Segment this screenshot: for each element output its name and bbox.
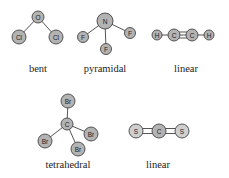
atom-h: H bbox=[152, 30, 162, 40]
atom-o: O bbox=[32, 11, 44, 23]
molecule-cbr4: CBrBrBrBrtetrahedral bbox=[38, 94, 98, 170]
atom-symbol: Cl bbox=[53, 34, 60, 41]
atom-symbol: Br bbox=[88, 131, 95, 138]
atom-symbol: C bbox=[190, 32, 195, 39]
atom-symbol: C bbox=[172, 32, 177, 39]
atom-f: F bbox=[78, 32, 89, 43]
atom-symbol: O bbox=[35, 14, 40, 21]
atom-symbol: Br bbox=[75, 146, 82, 153]
geometry-label: tetrahedral bbox=[46, 159, 91, 170]
geometry-label: linear bbox=[146, 159, 170, 170]
atom-s: S bbox=[129, 124, 143, 138]
atom-cl: Cl bbox=[49, 30, 63, 44]
molecular-geometry-diagram: OClClbentNFFFpyramidalHCCHlinearCBrBrBrB… bbox=[0, 0, 229, 178]
geometry-label: pyramidal bbox=[84, 63, 127, 74]
atom-n: N bbox=[97, 13, 113, 29]
atom-br: Br bbox=[71, 142, 85, 156]
atom-symbol: S bbox=[134, 128, 139, 135]
atom-c: C bbox=[152, 124, 166, 138]
atom-br: Br bbox=[61, 94, 75, 108]
atom-symbol: H bbox=[155, 32, 160, 39]
atom-symbol: F bbox=[104, 46, 108, 53]
atom-br: Br bbox=[38, 134, 52, 148]
atom-symbol: H bbox=[207, 32, 212, 39]
molecule-cs2: SCSlinear bbox=[129, 124, 189, 170]
molecule-nf3: NFFFpyramidal bbox=[78, 13, 136, 74]
atom-symbol: F bbox=[128, 30, 132, 37]
atom-symbol: Br bbox=[42, 138, 49, 145]
atom-symbol: Br bbox=[65, 98, 72, 105]
geometry-label: linear bbox=[174, 63, 198, 74]
atom-symbol: N bbox=[103, 18, 108, 25]
atom-br: Br bbox=[84, 127, 98, 141]
atom-c: C bbox=[168, 29, 180, 41]
molecule-ocl2: OClClbent bbox=[12, 11, 63, 74]
atom-symbol: F bbox=[81, 34, 85, 41]
atom-s: S bbox=[175, 124, 189, 138]
atom-f: F bbox=[125, 28, 136, 39]
atom-c: C bbox=[186, 29, 198, 41]
molecule-c2h2: HCCHlinear bbox=[152, 29, 214, 74]
atom-symbol: C bbox=[65, 121, 70, 128]
atom-c: C bbox=[61, 118, 73, 130]
atom-symbol: Cl bbox=[16, 34, 23, 41]
atom-h: H bbox=[204, 30, 214, 40]
atom-symbol: C bbox=[157, 128, 162, 135]
atom-symbol: S bbox=[180, 128, 185, 135]
geometry-label: bent bbox=[29, 63, 47, 74]
atom-cl: Cl bbox=[12, 30, 26, 44]
atom-f: F bbox=[101, 44, 112, 55]
